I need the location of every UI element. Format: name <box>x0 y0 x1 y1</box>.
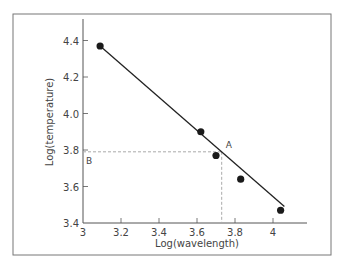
chart-frame <box>13 14 331 255</box>
y-tick-label: 3.6 <box>63 182 79 193</box>
projection-lines <box>83 152 222 223</box>
data-point <box>97 42 104 49</box>
x-tick-label: 3.2 <box>113 227 129 238</box>
fit-line <box>100 46 284 207</box>
x-tick-label: 3.4 <box>151 227 167 238</box>
data-point <box>212 152 219 159</box>
regression-line <box>100 46 284 207</box>
data-point <box>277 207 284 214</box>
axes <box>83 19 307 223</box>
y-axis-title: Log(temperature) <box>44 78 55 167</box>
data-point <box>237 176 244 183</box>
annotation-b: B <box>86 156 92 166</box>
x-tick-label: 4 <box>270 227 276 238</box>
x-tick-label: 3 <box>80 227 86 238</box>
x-tick-label: 3.6 <box>189 227 205 238</box>
annotation-a: A <box>226 140 233 150</box>
x-axis-title: Log(wavelength) <box>155 238 239 249</box>
y-tick-label: 4.2 <box>63 72 79 83</box>
y-tick-label: 3.8 <box>63 145 79 156</box>
data-point <box>197 128 204 135</box>
labels: 33.23.43.63.843.43.63.84.04.24.4Log(wave… <box>44 36 276 250</box>
y-tick-label: 3.4 <box>63 218 79 229</box>
chart: 33.23.43.63.843.43.63.84.04.24.4Log(wave… <box>0 0 348 272</box>
y-tick-label: 4.4 <box>63 36 79 47</box>
x-tick-label: 3.8 <box>227 227 243 238</box>
y-tick-label: 4.0 <box>63 109 79 120</box>
